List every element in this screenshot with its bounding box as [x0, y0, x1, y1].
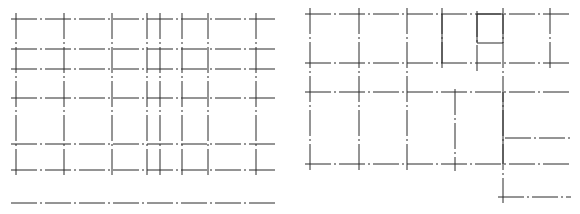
drawing-background [0, 0, 580, 214]
cad-axis-grid-drawing [0, 0, 580, 214]
